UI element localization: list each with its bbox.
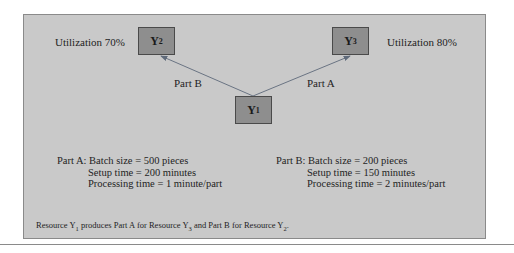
node-y2: Y2 <box>138 27 175 55</box>
node-y1: Y1 <box>235 96 272 124</box>
caption: Resource Y1 produces Part A for Resource… <box>36 219 289 235</box>
part-a-specs: Part A: Batch size = 500 pieces Setup ti… <box>57 155 222 190</box>
edge-label-part-a: Part A <box>307 77 335 89</box>
utilization-y3: Utilization 80% <box>387 36 457 48</box>
node-y3: Y3 <box>332 27 369 55</box>
edge-label-part-b: Part B <box>174 77 202 89</box>
arrow-y1-to-y3 <box>253 56 350 96</box>
bottom-rule <box>0 244 514 245</box>
arrow-y1-to-y2 <box>161 56 253 96</box>
part-b-specs: Part B: Batch size = 200 pieces Setup ti… <box>276 155 445 190</box>
utilization-y2: Utilization 70% <box>55 36 125 48</box>
